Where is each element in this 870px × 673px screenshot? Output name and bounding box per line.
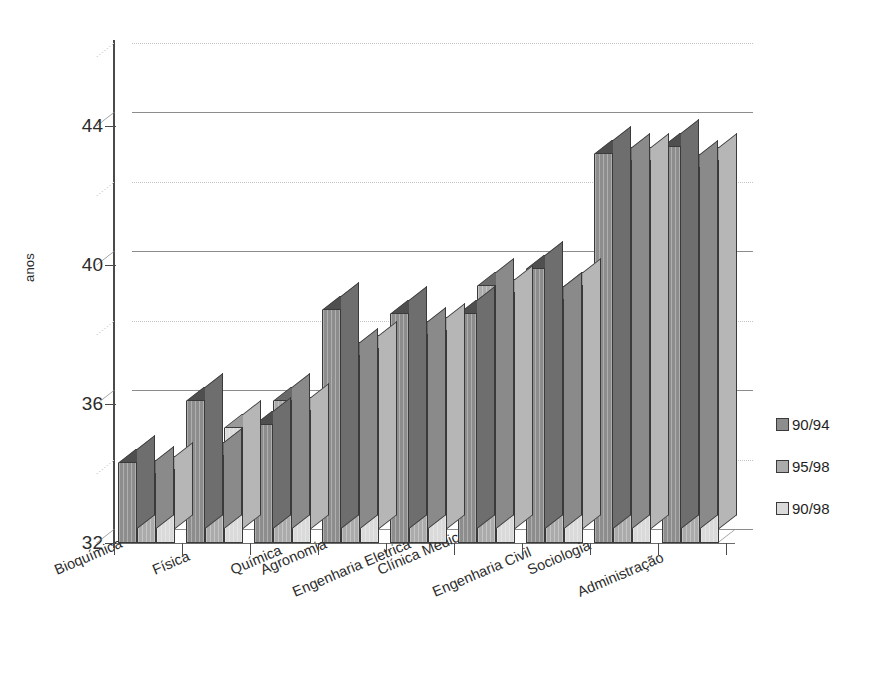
- axis-floor-right: [717, 529, 736, 543]
- bar-side-face: [205, 373, 223, 529]
- x-tick-label: Física: [150, 548, 192, 578]
- bar-side-face: [632, 133, 650, 529]
- x-tick-label: Administração: [575, 549, 666, 600]
- x-tick-mark: [114, 543, 115, 555]
- bar-side-face: [515, 265, 533, 529]
- legend-label: 90/94: [792, 418, 830, 431]
- x-tick-label: Engenharia Civil: [430, 544, 533, 600]
- legend-swatch-icon: [776, 418, 789, 431]
- bar-side-face: [292, 373, 310, 529]
- bar-side-face: [224, 428, 242, 529]
- x-tick-mark: [250, 543, 251, 555]
- bar-side-face: [360, 327, 378, 529]
- bar-side-face: [496, 258, 514, 529]
- bar-side-face: [409, 286, 427, 529]
- bar-side-face: [243, 400, 261, 529]
- bar-side-face: [681, 119, 699, 529]
- bar-side-face: [137, 435, 155, 529]
- plot-area: anos 44403632 BioquímicaFísicaQuímicaAgr…: [0, 0, 870, 673]
- x-tick-mark: [386, 543, 387, 555]
- x-tick-mark: [182, 543, 183, 555]
- chart-figure: anos 44403632 BioquímicaFísicaQuímicaAgr…: [0, 0, 870, 673]
- bar-side-face: [719, 133, 737, 529]
- y-axis-label: anos: [22, 253, 37, 282]
- y-tick-label: 36: [82, 393, 103, 415]
- legend-swatch-icon: [776, 460, 789, 473]
- x-tick-mark: [658, 543, 659, 555]
- bar-side-face: [428, 307, 446, 529]
- x-tick-mark: [726, 543, 727, 555]
- bar-side-face: [545, 241, 563, 529]
- bar-side-face: [583, 258, 601, 529]
- y-tick-mark: [105, 265, 116, 266]
- bar-side-face: [311, 383, 329, 529]
- bar-side-face: [341, 282, 359, 529]
- x-tick-mark: [522, 543, 523, 555]
- bar-side-face: [700, 140, 718, 529]
- y-tick-mark: [105, 126, 116, 127]
- legend-item[interactable]: 90/94: [776, 418, 830, 431]
- legend: 90/94 95/98 90/98: [776, 418, 830, 544]
- legend-item[interactable]: 95/98: [776, 460, 830, 473]
- x-tick-mark: [590, 543, 591, 555]
- x-tick-mark: [318, 543, 319, 555]
- bar-side-face: [447, 303, 465, 529]
- x-tick-mark: [454, 543, 455, 555]
- gridline-minor: [132, 43, 753, 44]
- bar-side-face: [564, 272, 582, 529]
- bar: [118, 463, 137, 543]
- bar-side-face: [175, 442, 193, 529]
- bar-side-face: [273, 397, 291, 529]
- bar-side-face: [156, 445, 174, 529]
- legend-label: 90/98: [792, 502, 830, 515]
- y-tick-label: 44: [82, 115, 103, 137]
- bar-side-face: [651, 133, 669, 529]
- bar-side-face: [379, 320, 397, 528]
- gridline-major: [132, 112, 753, 113]
- bar-side-face: [477, 286, 495, 529]
- legend-item[interactable]: 90/98: [776, 502, 830, 515]
- legend-swatch-icon: [776, 502, 789, 515]
- bar-side-face: [613, 126, 631, 529]
- y-axis-line: [113, 40, 115, 548]
- y-tick-label: 40: [82, 254, 103, 276]
- y-tick-mark: [105, 404, 116, 405]
- legend-label: 95/98: [792, 460, 830, 473]
